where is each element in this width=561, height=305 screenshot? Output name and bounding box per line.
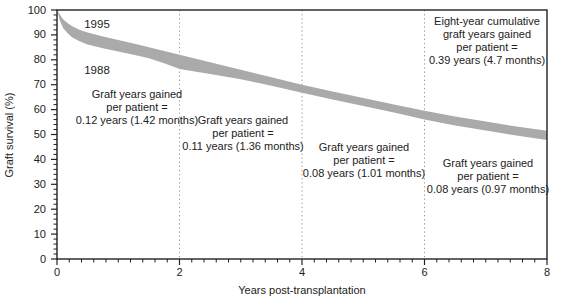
annotation-line: 0.12 years (1.42 months): [76, 114, 198, 127]
y-tick-label-0: 0: [18, 253, 46, 266]
annotation-line: per patient =: [76, 101, 198, 114]
annotation-line: 0.08 years (1.01 months): [303, 167, 425, 180]
annotation-line: per patient =: [427, 170, 549, 183]
annotation-line: Graft years gained: [427, 157, 549, 170]
x-tick-label-4: 4: [299, 266, 305, 279]
x-axis-title: Years post-transplantation: [238, 284, 365, 296]
annotation-line: 0.39 years (4.7 months): [429, 54, 545, 67]
annotation-line: Eight-year cumulative: [429, 15, 545, 28]
y-tick-label-40: 40: [18, 153, 46, 166]
y-tick-label-90: 90: [18, 28, 46, 41]
y-tick-label-10: 10: [18, 228, 46, 241]
y-tick-label-100: 100: [18, 4, 46, 17]
annotation-line: 0.11 years (1.36 months): [182, 140, 303, 153]
y-tick-label-80: 80: [18, 53, 46, 66]
annotation-years-4-6: Graft years gained per patient = 0.08 ye…: [303, 141, 425, 180]
annotation-line: graft years gained: [429, 28, 545, 41]
y-tick-label-70: 70: [18, 78, 46, 91]
annotation-line: 0.08 years (0.97 months): [427, 183, 549, 196]
y-tick-label-50: 50: [18, 128, 46, 141]
annotation-years-0-2: Graft years gained per patient = 0.12 ye…: [76, 88, 198, 127]
annotation-line: per patient =: [182, 127, 303, 140]
annotation-eight-year-cumulative: Eight-year cumulative graft years gained…: [429, 15, 545, 67]
graft-survival-figure: Graft survival (%) Years post-transplant…: [0, 0, 561, 305]
curve-label-1995: 1995: [84, 18, 110, 30]
y-tick-label-60: 60: [18, 103, 46, 116]
y-axis-title: Graft survival (%): [3, 93, 15, 178]
y-tick-label-30: 30: [18, 178, 46, 191]
x-tick-label-2: 2: [176, 266, 182, 279]
annotation-line: Graft years gained: [76, 88, 198, 101]
x-tick-label-0: 0: [54, 266, 60, 279]
curve-label-1988: 1988: [84, 64, 110, 76]
annotation-years-2-4: Graft years gained per patient = 0.11 ye…: [182, 114, 303, 153]
y-tick-label-20: 20: [18, 203, 46, 216]
annotation-line: per patient =: [429, 41, 545, 54]
x-tick-label-8: 8: [544, 266, 550, 279]
annotation-line: Graft years gained: [182, 114, 303, 127]
annotation-line: Graft years gained: [303, 141, 425, 154]
annotation-years-6-8: Graft years gained per patient = 0.08 ye…: [427, 157, 549, 196]
x-tick-label-6: 6: [421, 266, 427, 279]
annotation-line: per patient =: [303, 154, 425, 167]
